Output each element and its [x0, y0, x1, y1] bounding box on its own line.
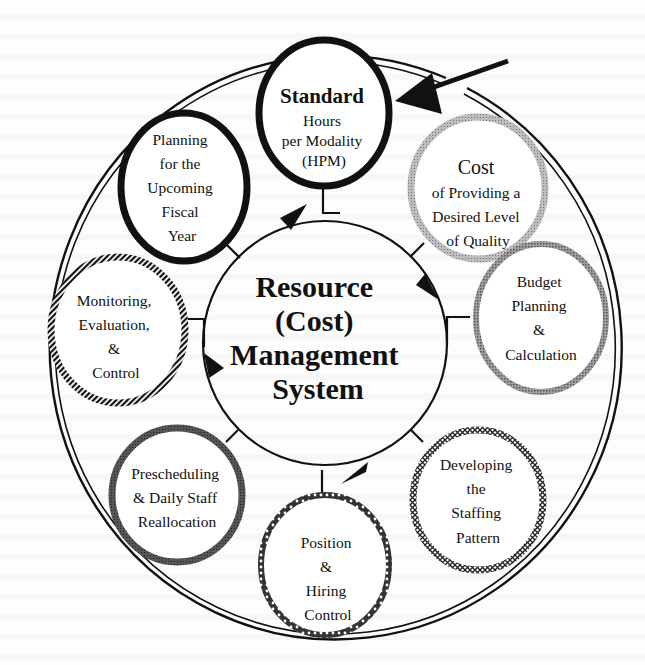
center-title: Resource (Cost) Management System — [230, 270, 406, 405]
node-prescheduling: Prescheduling & Daily Staff Reallocation — [112, 428, 242, 562]
node-staffing-pattern: Developing the Staffing Pattern — [413, 430, 543, 570]
resource-management-cycle-diagram: Standard Hours per Modality (HPM) Cost o… — [0, 0, 645, 665]
node-position-hiring: Position & Hiring Control — [261, 495, 389, 635]
pointer-arrow — [395, 61, 508, 114]
node-planning: Planning for the Upcoming Fiscal Year — [121, 113, 247, 261]
node-prescheduling-label: Prescheduling & Daily Staff Reallocation — [131, 465, 223, 530]
node-cost-quality: Cost of Providing a Desired Level of Qua… — [411, 117, 545, 259]
arrowhead-bottom — [341, 462, 368, 484]
node-budget: Budget Planning & Calculation — [476, 244, 606, 392]
node-standard-hours: Standard Hours per Modality (HPM) — [259, 40, 389, 186]
node-monitoring: Monitoring, Evaluation, & Control — [51, 257, 185, 403]
